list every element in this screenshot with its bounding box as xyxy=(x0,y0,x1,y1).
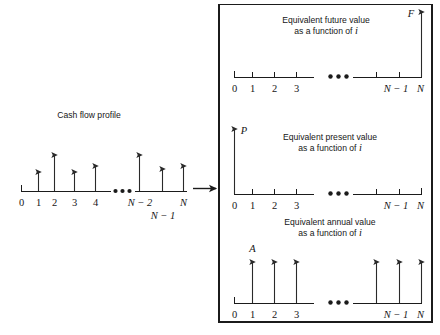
present-value-symbol: P xyxy=(240,125,248,136)
future-value-caption-prefix: as a function of xyxy=(294,26,355,36)
annual-value-caption-prefix: as a function of xyxy=(298,228,359,238)
present-value-caption-line2: as a function of i xyxy=(298,142,362,153)
present-value-caption-line1: Equivalent present value xyxy=(283,132,377,142)
future-value-axis-ticks xyxy=(253,72,400,78)
av-tick-label-1: 1 xyxy=(250,309,255,320)
left-tick-label-3: 3 xyxy=(72,197,77,208)
left-tick-label-0: 0 xyxy=(19,197,24,208)
pv-tick-label-0: 0 xyxy=(232,200,237,211)
av-tick-label-n-minus-1: N − 1 xyxy=(383,309,409,320)
av-tick-label-0: 0 xyxy=(232,309,237,320)
annual-value-panel: Equivalent annual value as a function of… xyxy=(232,217,425,320)
annual-value-tick-labels: 0 1 2 3 N − 1 N xyxy=(232,309,425,320)
future-value-interest-symbol: i xyxy=(355,25,358,36)
left-tick-label-n: N xyxy=(179,197,188,208)
future-value-tick-labels: 0 1 2 3 N − 1 N xyxy=(232,83,425,94)
fv-tick-label-n: N xyxy=(416,83,425,94)
present-value-caption-prefix: as a function of xyxy=(298,143,359,153)
future-value-symbol: F xyxy=(407,8,415,19)
figure-canvas: Cash flow profile xyxy=(0,0,440,335)
fv-tick-label-0: 0 xyxy=(232,83,237,94)
pv-tick-label-1: 1 xyxy=(250,200,255,211)
future-value-caption-line2: as a function of i xyxy=(294,25,358,36)
av-tick-label-3: 3 xyxy=(294,309,299,320)
annual-value-caption-line1: Equivalent annual value xyxy=(284,217,375,227)
future-value-caption-line1: Equivalent future value xyxy=(282,15,370,25)
annual-value-caption-line2: as a function of i xyxy=(298,227,362,238)
av-tick-label-2: 2 xyxy=(272,309,277,320)
left-tick-label-1: 1 xyxy=(36,197,41,208)
annual-value-interest-symbol: i xyxy=(359,227,362,238)
left-axis-ellipsis xyxy=(113,189,131,193)
annual-value-arrows xyxy=(253,262,422,303)
av-tick-label-n: N xyxy=(416,309,425,320)
pv-tick-label-n-minus-1: N − 1 xyxy=(383,200,409,211)
pv-tick-label-2: 2 xyxy=(272,200,277,211)
future-value-axis-ellipsis xyxy=(328,74,348,78)
left-tick-label-n-minus-2: N − 2 xyxy=(127,197,153,208)
left-axis-ticks xyxy=(39,186,184,192)
engineering-economics-equivalence-diagram: Cash flow profile xyxy=(0,0,440,335)
future-value-axis xyxy=(234,71,422,78)
fv-tick-label-3: 3 xyxy=(294,83,299,94)
fv-tick-label-2: 2 xyxy=(272,83,277,94)
present-value-tick-labels: 0 1 2 3 N − 1 N xyxy=(232,200,425,211)
present-value-panel: Equivalent present value as a function o… xyxy=(232,125,425,211)
fv-tick-label-1: 1 xyxy=(250,83,255,94)
pv-tick-label-3: 3 xyxy=(294,200,299,211)
left-panel-title: Cash flow profile xyxy=(57,110,121,120)
annual-value-axis-ellipsis xyxy=(328,300,348,304)
left-axis-tick-labels: 0 1 2 3 4 N − 2 N N − 1 xyxy=(19,197,188,221)
annual-value-axis xyxy=(234,297,422,304)
present-value-axis xyxy=(234,188,422,195)
left-tick-label-4: 4 xyxy=(93,197,99,208)
present-value-axis-ticks xyxy=(253,189,400,195)
pv-tick-label-n: N xyxy=(416,200,425,211)
left-cash-flow-arrows xyxy=(39,155,184,191)
future-value-panel: Equivalent future value as a function of… xyxy=(232,8,425,94)
present-value-axis-ellipsis xyxy=(328,191,348,195)
left-tick-label-n-minus-1: N − 1 xyxy=(150,210,176,221)
left-cash-flow-panel: Cash flow profile xyxy=(19,110,188,221)
annual-value-symbol: A xyxy=(248,243,256,254)
left-tick-label-2: 2 xyxy=(52,197,57,208)
present-value-interest-symbol: i xyxy=(359,142,362,153)
fv-tick-label-n-minus-1: N − 1 xyxy=(383,83,409,94)
